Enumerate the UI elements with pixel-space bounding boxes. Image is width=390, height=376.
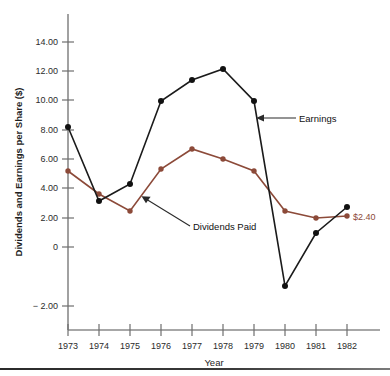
y-label-4: 4.00 bbox=[40, 183, 58, 193]
earnings-annotation-label: Earnings bbox=[299, 113, 337, 124]
earnings-point-1978 bbox=[220, 66, 226, 72]
x-label-1981: 1981 bbox=[306, 341, 326, 351]
dividends-annotation-label: Dividends Paid bbox=[193, 221, 256, 232]
figure-container: 14.00 12.00 10.00 8.00 6.00 4.00 2.00 0 … bbox=[0, 0, 390, 376]
earnings-markers bbox=[65, 66, 350, 289]
x-axis-tick-labels: 1973 1974 1975 1976 1977 1978 1979 1980 … bbox=[58, 341, 357, 351]
dividends-point-1979 bbox=[251, 168, 256, 173]
x-label-1978: 1978 bbox=[213, 341, 233, 351]
y-label-minus2: − 2.00 bbox=[33, 301, 58, 311]
dividends-paid-markers bbox=[65, 146, 349, 220]
dividends-point-1976 bbox=[158, 166, 163, 171]
final-value-label: $2.40 bbox=[353, 212, 376, 222]
dividends-paid-line bbox=[68, 149, 347, 218]
dividends-point-1982 bbox=[344, 213, 349, 218]
y-label-12: 12.00 bbox=[35, 66, 58, 76]
y-axis-title: Dividends and Earnings per Share ($) bbox=[13, 88, 24, 257]
dividends-leader-line bbox=[146, 199, 190, 226]
earnings-point-1981 bbox=[313, 230, 319, 236]
x-axis-title: Year bbox=[204, 357, 223, 368]
earnings-point-1980 bbox=[282, 283, 288, 289]
x-label-1976: 1976 bbox=[151, 341, 171, 351]
x-label-1973: 1973 bbox=[58, 341, 78, 351]
earnings-point-1979 bbox=[251, 98, 257, 104]
axis-lines bbox=[68, 14, 380, 330]
x-label-1975: 1975 bbox=[120, 341, 140, 351]
earnings-point-1977 bbox=[189, 77, 195, 83]
earnings-point-1973 bbox=[65, 124, 71, 130]
y-label-10: 10.00 bbox=[35, 95, 58, 105]
dividends-point-1978 bbox=[220, 156, 225, 161]
dividends-point-1975 bbox=[127, 208, 132, 213]
x-label-1979: 1979 bbox=[244, 341, 264, 351]
y-label-8: 8.00 bbox=[40, 125, 58, 135]
annotation-earnings: Earnings bbox=[256, 113, 337, 124]
line-chart: 14.00 12.00 10.00 8.00 6.00 4.00 2.00 0 … bbox=[0, 0, 390, 376]
y-label-0: 0 bbox=[53, 242, 58, 252]
earnings-line bbox=[68, 69, 347, 286]
y-label-2: 2.00 bbox=[40, 213, 58, 223]
annotation-dividends-paid: Dividends Paid bbox=[142, 196, 257, 231]
dividends-point-1981 bbox=[313, 215, 318, 220]
x-label-1980: 1980 bbox=[275, 341, 295, 351]
x-label-1974: 1974 bbox=[89, 341, 109, 351]
series-dividends-paid bbox=[65, 146, 349, 220]
earnings-point-1976 bbox=[158, 98, 164, 104]
dividends-point-1980 bbox=[282, 208, 287, 213]
earnings-point-1974 bbox=[96, 198, 102, 204]
x-label-1977: 1977 bbox=[182, 341, 202, 351]
cropped-title-text bbox=[0, 0, 390, 9]
dividends-point-1977 bbox=[189, 146, 194, 151]
earnings-point-1982 bbox=[344, 204, 350, 210]
series-earnings bbox=[65, 66, 350, 289]
dividends-arrow-icon bbox=[142, 196, 151, 203]
earnings-point-1975 bbox=[127, 181, 133, 187]
bottom-divider bbox=[0, 368, 390, 370]
y-axis-tick-labels: 14.00 12.00 10.00 8.00 6.00 4.00 2.00 0 … bbox=[33, 37, 58, 311]
y-label-6: 6.00 bbox=[40, 154, 58, 164]
dividends-point-1973 bbox=[65, 168, 70, 173]
y-label-14: 14.00 bbox=[35, 37, 58, 47]
x-label-1982: 1982 bbox=[337, 341, 357, 351]
